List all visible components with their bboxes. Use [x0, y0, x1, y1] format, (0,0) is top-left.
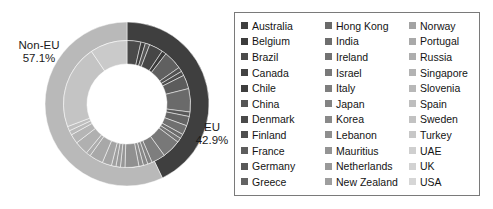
- legend-item-norway[interactable]: Norway: [409, 18, 475, 34]
- legend-item-portugal[interactable]: Portugal: [409, 34, 475, 50]
- donut-chart-svg: [0, 0, 232, 209]
- legend-item-mauritius[interactable]: Mauritius: [325, 143, 409, 159]
- non-eu-label-percent: 57.1%: [8, 52, 70, 65]
- legend-swatch-icon: [325, 131, 332, 138]
- legend-swatch-icon: [241, 69, 248, 76]
- legend-item-label: Turkey: [420, 129, 452, 141]
- legend-grid: AustraliaHong KongNorwayBelgiumIndiaPort…: [241, 18, 475, 190]
- eu-label-percent: 42.9%: [190, 134, 234, 147]
- legend-item-ireland[interactable]: Ireland: [325, 49, 409, 65]
- legend-item-slovenia[interactable]: Slovenia: [409, 80, 475, 96]
- legend-swatch-icon: [325, 85, 332, 92]
- legend-item-netherlands[interactable]: Netherlands: [325, 158, 409, 174]
- legend-item-label: Greece: [252, 176, 286, 188]
- legend-swatch-icon: [325, 38, 332, 45]
- legend-item-new-zealand[interactable]: New Zealand: [325, 174, 409, 190]
- legend-item-france[interactable]: France: [241, 143, 325, 159]
- legend-item-usa[interactable]: USA: [409, 174, 475, 190]
- legend-item-india[interactable]: India: [325, 34, 409, 50]
- legend-item-brazil[interactable]: Brazil: [241, 49, 325, 65]
- legend-item-label: Canada: [252, 67, 289, 79]
- legend-item-spain[interactable]: Spain: [409, 96, 475, 112]
- legend-item-label: Russia: [420, 51, 452, 63]
- legend-swatch-icon: [325, 69, 332, 76]
- legend-item-label: Portugal: [420, 35, 459, 47]
- legend-item-label: Israel: [336, 67, 362, 79]
- legend-item-label: Germany: [252, 160, 295, 172]
- legend-item-label: Lebanon: [336, 129, 377, 141]
- pie-chart-figure: Non-EU 57.1% EU 42.9% AustraliaHong Kong…: [0, 0, 493, 209]
- legend-swatch-icon: [409, 147, 416, 154]
- legend-item-canada[interactable]: Canada: [241, 65, 325, 81]
- donut-chart: Non-EU 57.1% EU 42.9%: [0, 0, 232, 209]
- legend-item-label: France: [252, 145, 285, 157]
- legend-item-russia[interactable]: Russia: [409, 49, 475, 65]
- legend-item-label: Chile: [252, 82, 276, 94]
- legend-item-hong-kong[interactable]: Hong Kong: [325, 18, 409, 34]
- legend-item-australia[interactable]: Australia: [241, 18, 325, 34]
- legend-swatch-icon: [241, 163, 248, 170]
- legend-item-lebanon[interactable]: Lebanon: [325, 127, 409, 143]
- legend-swatch-icon: [325, 100, 332, 107]
- legend-item-chile[interactable]: Chile: [241, 80, 325, 96]
- legend-item-label: India: [336, 35, 359, 47]
- legend-item-italy[interactable]: Italy: [325, 80, 409, 96]
- legend-item-japan[interactable]: Japan: [325, 96, 409, 112]
- legend-item-korea[interactable]: Korea: [325, 112, 409, 128]
- legend-item-greece[interactable]: Greece: [241, 174, 325, 190]
- legend-item-label: Finland: [252, 129, 286, 141]
- legend-swatch-icon: [409, 178, 416, 185]
- legend-swatch-icon: [409, 38, 416, 45]
- chart-legend: AustraliaHong KongNorwayBelgiumIndiaPort…: [234, 12, 480, 196]
- legend-swatch-icon: [325, 116, 332, 123]
- legend-item-singapore[interactable]: Singapore: [409, 65, 475, 81]
- legend-swatch-icon: [325, 22, 332, 29]
- legend-swatch-icon: [409, 22, 416, 29]
- legend-item-label: Japan: [336, 98, 365, 110]
- inner-ring-countries: [64, 41, 191, 168]
- legend-swatch-icon: [409, 53, 416, 60]
- legend-swatch-icon: [409, 131, 416, 138]
- legend-item-label: UK: [420, 160, 435, 172]
- legend-swatch-icon: [241, 116, 248, 123]
- legend-swatch-icon: [241, 85, 248, 92]
- eu-slice-label: EU 42.9%: [190, 121, 234, 147]
- legend-item-germany[interactable]: Germany: [241, 158, 325, 174]
- legend-item-label: UAE: [420, 145, 442, 157]
- legend-item-uae[interactable]: UAE: [409, 143, 475, 159]
- legend-item-label: Korea: [336, 113, 364, 125]
- legend-swatch-icon: [409, 69, 416, 76]
- legend-swatch-icon: [409, 100, 416, 107]
- legend-swatch-icon: [409, 116, 416, 123]
- legend-item-label: Denmark: [252, 113, 295, 125]
- legend-item-label: Singapore: [420, 67, 468, 79]
- legend-item-label: Hong Kong: [336, 20, 389, 32]
- legend-item-label: New Zealand: [336, 176, 398, 188]
- legend-item-label: USA: [420, 176, 442, 188]
- legend-item-label: Spain: [420, 98, 447, 110]
- legend-item-israel[interactable]: Israel: [325, 65, 409, 81]
- legend-swatch-icon: [325, 178, 332, 185]
- legend-item-finland[interactable]: Finland: [241, 127, 325, 143]
- legend-swatch-icon: [241, 131, 248, 138]
- legend-item-label: Australia: [252, 20, 293, 32]
- legend-swatch-icon: [241, 22, 248, 29]
- eu-label-name: EU: [190, 121, 234, 134]
- legend-item-label: Norway: [420, 20, 456, 32]
- legend-item-belgium[interactable]: Belgium: [241, 34, 325, 50]
- legend-swatch-icon: [325, 147, 332, 154]
- legend-swatch-icon: [325, 163, 332, 170]
- non-eu-label-name: Non-EU: [8, 39, 70, 52]
- legend-item-turkey[interactable]: Turkey: [409, 127, 475, 143]
- legend-item-label: Italy: [336, 82, 355, 94]
- legend-swatch-icon: [241, 38, 248, 45]
- legend-swatch-icon: [241, 100, 248, 107]
- legend-item-sweden[interactable]: Sweden: [409, 112, 475, 128]
- legend-item-china[interactable]: China: [241, 96, 325, 112]
- legend-swatch-icon: [241, 53, 248, 60]
- non-eu-slice-label: Non-EU 57.1%: [8, 39, 70, 65]
- legend-item-uk[interactable]: UK: [409, 158, 475, 174]
- legend-swatch-icon: [409, 163, 416, 170]
- legend-swatch-icon: [241, 147, 248, 154]
- legend-item-denmark[interactable]: Denmark: [241, 112, 325, 128]
